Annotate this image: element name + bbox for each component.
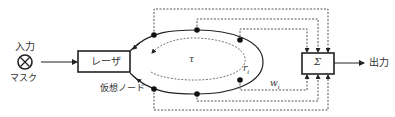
delay-label: τ xyxy=(189,55,194,64)
delay-loop xyxy=(130,30,263,94)
reservoir-diagram: 入力 マスク レーザ 仮想ノード τ ri wi Σ 出力 xyxy=(0,0,395,117)
mask-multiplier-icon xyxy=(18,55,32,69)
delay-direction-arc xyxy=(151,38,245,80)
virtual-node-label: 仮想ノード xyxy=(100,84,145,93)
sum-label: Σ xyxy=(314,57,321,67)
virtual-nodes xyxy=(151,27,243,97)
output-label: 出力 xyxy=(369,58,389,68)
node-response-label: ri xyxy=(243,64,249,75)
laser-label: レーザ xyxy=(91,57,121,67)
mask-label: マスク xyxy=(10,74,37,83)
weight-label: wi xyxy=(270,79,280,90)
input-label: 入力 xyxy=(15,42,35,52)
diagram-graphics xyxy=(0,0,395,117)
